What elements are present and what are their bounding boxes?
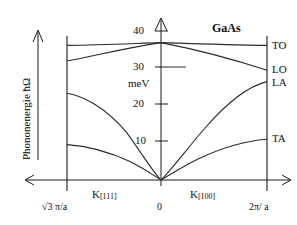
zone-boundary-lines (67, 36, 267, 191)
x-axis-label-100: K[100] (190, 189, 215, 201)
x-right-boundary-label: 2π/ a (249, 202, 269, 212)
dispersion-plot-svg (0, 0, 297, 225)
x-axis-label-100-symbol: K (190, 188, 198, 200)
y-tick-label-30: 30 (133, 61, 144, 72)
y-tick-label-40: 40 (133, 25, 144, 36)
x-left-boundary-label: √3 π/a (42, 202, 67, 212)
y-tick-label-10: 10 (135, 135, 146, 146)
branch-label-la: LA (272, 77, 287, 88)
branch-label-to: TO (272, 40, 286, 51)
y-axis-title: Phononenergie ħΩ (20, 78, 32, 160)
x-origin-label: 0 (157, 202, 162, 212)
x-axis-label-100-subscript: [100] (198, 192, 215, 201)
phonon-dispersion-figure: 40 30 20 10 meV Phononenergie ħΩ GaAs TO… (0, 0, 297, 225)
y-tick-label-20: 20 (133, 98, 144, 109)
energy-direction-arrow (33, 30, 43, 160)
curve-la (67, 82, 267, 180)
y-tick-marks (155, 31, 186, 141)
x-axis-label-111-subscript: [111] (100, 192, 117, 201)
branch-label-ta: TA (272, 133, 286, 144)
y-axis-unit-label: meV (128, 78, 149, 89)
curve-lo (67, 43, 267, 71)
x-axis-label-111: K[111] (92, 189, 117, 201)
x-axis-label-111-symbol: K (92, 188, 100, 200)
figure-title: GaAs (212, 22, 241, 34)
branch-label-lo: LO (272, 64, 287, 75)
